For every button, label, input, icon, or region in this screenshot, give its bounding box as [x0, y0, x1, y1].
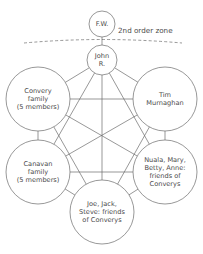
node-label-line: Convery: [24, 87, 51, 95]
node-label-fw: F.W.: [96, 20, 109, 28]
node-label-line: family: [28, 168, 48, 176]
graph-canvas: F.W.JohnR.Converyfamily(5 members)TimMur…: [0, 0, 203, 254]
node-label-line: F.W.: [96, 20, 109, 28]
node-label-nuala-mary-betty-anne: Nuala, Mary,Betty, Anne:friends ofConver…: [144, 155, 186, 188]
graph-edge: [65, 189, 75, 195]
graph-edge: [65, 68, 89, 83]
node-label-line: (5 members): [17, 103, 60, 111]
graph-edge: [129, 189, 138, 195]
node-label-line: family: [28, 95, 48, 103]
node-label-line: Converys: [150, 180, 181, 188]
node-label-line: R.: [99, 60, 105, 68]
node-label-line: Joe, Jack,: [86, 200, 117, 208]
node-label-line: Steve: friends: [79, 208, 125, 216]
node-label-line: Canavan: [24, 160, 53, 168]
node-label-line: friends of: [149, 172, 181, 180]
node-label-line: (5 members): [17, 176, 60, 184]
zone-divider-line: [24, 40, 182, 44]
node-label-line: of Converys: [82, 216, 122, 224]
zone-divider-layer: [24, 40, 182, 44]
zone-label: 2nd order zone: [118, 26, 173, 35]
node-label-line: Betty, Anne:: [145, 164, 186, 172]
social-network-diagram: F.W.JohnR.Converyfamily(5 members)TimMur…: [0, 0, 203, 254]
node-label-line: Nuala, Mary,: [144, 155, 186, 163]
graph-edge: [115, 68, 138, 82]
node-label-line: Murnaghan: [146, 99, 183, 107]
node-label-line: Tim: [158, 91, 171, 99]
